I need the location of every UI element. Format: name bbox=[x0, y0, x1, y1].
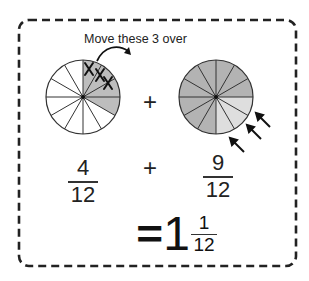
denominator: 12 bbox=[71, 184, 95, 206]
move-caption: Move these 3 over bbox=[84, 32, 187, 46]
right-pie-chart bbox=[179, 60, 253, 134]
denominator: 12 bbox=[206, 179, 230, 201]
fraction-left: 4 12 bbox=[68, 157, 98, 206]
equals-sign: = bbox=[136, 214, 163, 254]
result-whole: 1 bbox=[163, 210, 190, 258]
curved-arrow-icon bbox=[97, 47, 131, 61]
fraction-right: 9 12 bbox=[203, 152, 233, 201]
result-expression: = 1 1 12 bbox=[138, 210, 217, 258]
numerator: 4 bbox=[77, 157, 89, 179]
bottom-plus-sign: + bbox=[143, 156, 157, 180]
top-plus-sign: + bbox=[143, 90, 157, 114]
denominator: 12 bbox=[193, 236, 214, 254]
left-pie-chart bbox=[46, 60, 120, 134]
numerator: 1 bbox=[199, 214, 210, 232]
result-fraction: 1 12 bbox=[191, 214, 217, 255]
numerator: 9 bbox=[212, 152, 224, 174]
